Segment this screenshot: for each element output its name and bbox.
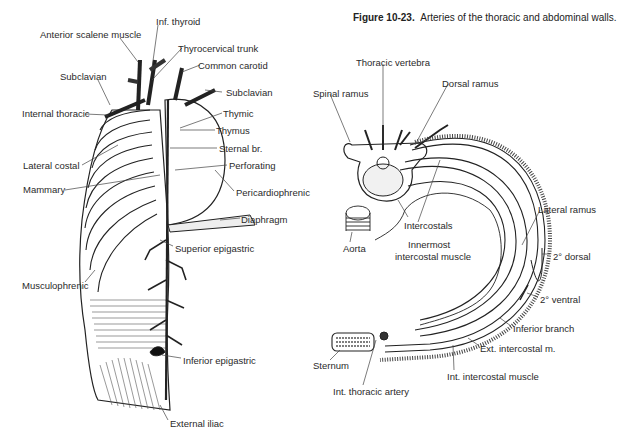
aorta-coil [346, 206, 370, 231]
figure-caption: Figure 10-23. Arteries of the thoracic a… [353, 12, 616, 23]
label-mammary: Mammary [23, 184, 65, 195]
vertebra [344, 143, 427, 201]
label-thyrocervical-trunk: Thyrocervical trunk [178, 43, 258, 54]
label-innermost-line2: intercostal muscle [395, 251, 471, 262]
label-thymic: Thymic [223, 108, 254, 119]
label-sternum: Sternum [313, 360, 349, 371]
label-dorsal-ramus: Dorsal ramus [442, 78, 499, 89]
label-internal-thoracic: Internal thoracic [22, 108, 90, 119]
label-pericardiophrenic: Pericardiophrenic [236, 187, 310, 198]
label-2-dorsal: 2° dorsal [553, 251, 591, 262]
label-sternal-br: Sternal br. [219, 143, 262, 154]
label-int-thoracic-artery: Int. thoracic artery [333, 386, 409, 397]
label-spinal-ramus: Spinal ramus [313, 88, 368, 99]
sternum [332, 332, 388, 351]
label-subclavian-left: Subclavian [60, 71, 106, 82]
label-external-iliac: External iliac [170, 418, 224, 429]
label-musculophrenic: Musculophrenic [22, 280, 89, 291]
ribs [85, 110, 157, 292]
label-perforating: Perforating [229, 160, 275, 171]
label-2-ventral: 2° ventral [540, 294, 580, 305]
label-aorta: Aorta [343, 243, 366, 254]
label-lateral-ramus: Lateral ramus [538, 204, 596, 215]
label-inferior-branch: Inferior branch [513, 323, 574, 334]
heart-pericardium [165, 99, 225, 225]
label-anterior-scalene-muscle: Anterior scalene muscle [40, 29, 141, 40]
torso-outline [80, 110, 170, 410]
label-thoracic-vertebra: Thoracic vertebra [356, 57, 430, 68]
label-lateral-costal: Lateral costal [23, 160, 80, 171]
label-inferior-epigastric: Inferior epigastric [183, 355, 256, 366]
label-inf-thyroid: Inf. thyroid [156, 16, 200, 27]
figure-number: Figure 10-23. [353, 12, 415, 23]
label-diaphragm: Diaphragm [241, 214, 287, 225]
label-thymus: Thymus [216, 125, 250, 136]
label-intercostals: Intercostals [404, 220, 453, 231]
label-subclavian-right: Subclavian [226, 87, 272, 98]
figure-caption-text: Arteries of the thoracic and abdominal w… [420, 12, 616, 23]
label-common-carotid: Common carotid [198, 60, 268, 71]
label-innermost-line1: Innermost [408, 239, 450, 250]
label-superior-epigastric: Superior epigastric [175, 243, 254, 254]
label-ext-intercostal-m: Ext. intercostal m. [480, 343, 556, 354]
label-int-intercostal-muscle: Int. intercostal muscle [447, 371, 539, 382]
